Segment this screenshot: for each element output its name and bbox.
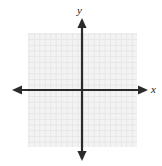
axes-layer [0, 0, 162, 166]
y-axis-down-arrow-icon [77, 151, 86, 161]
y-axis-label: y [77, 5, 82, 16]
coordinate-plane-figure: y x [0, 0, 162, 166]
x-axis-left-arrow-icon [12, 85, 22, 94]
x-axis-right-arrow-icon [138, 85, 148, 94]
y-axis-up-arrow-icon [77, 18, 86, 28]
x-axis-label: x [151, 84, 156, 95]
